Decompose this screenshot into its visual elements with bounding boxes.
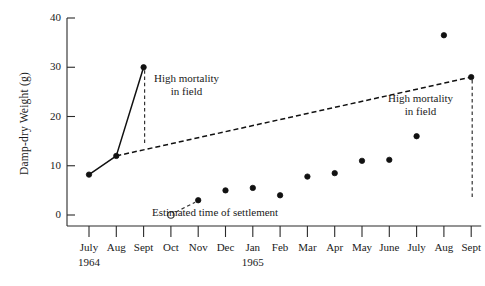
annotation-line: High mortality [154, 72, 219, 85]
y-axis-ticks [67, 18, 75, 215]
series-markers-group [86, 33, 474, 219]
y-axis-label: Damp-dry Weight (g) [18, 72, 30, 175]
high-mortality-1964-annotation: High mortalityin field [154, 72, 219, 97]
high-mortality-1965-annotation: High mortalityin field [388, 92, 453, 117]
x-axis-tick-label: Dec [217, 241, 235, 253]
x-axis-year-label: 1965 [242, 256, 264, 268]
data-point-marker [141, 65, 146, 70]
x-axis-ticks [89, 226, 471, 237]
y-axis-tick-label: 0 [37, 208, 61, 220]
y-axis-tick-label: 20 [37, 110, 61, 122]
x-axis-tick-label: Sept [134, 241, 154, 253]
data-point-marker [277, 193, 282, 198]
y-axis-tick-label: 30 [37, 60, 61, 72]
series-group [89, 67, 471, 212]
x-axis-tick-label: July [407, 241, 425, 253]
x-axis-tick-label: Aug [434, 241, 453, 253]
x-axis-tick-label: May [352, 241, 372, 253]
data-point-marker [469, 74, 474, 79]
annotation-line: in field [388, 105, 453, 118]
y-axis-tick-label: 40 [37, 11, 61, 23]
annotation-line: High mortality [388, 92, 453, 105]
data-point-marker [332, 170, 337, 175]
x-axis-tick-label: July [80, 241, 98, 253]
annotation-line: in field [154, 85, 219, 98]
x-axis-tick-label: Mar [298, 241, 316, 253]
x-axis-tick-label: Aug [107, 241, 126, 253]
chart-figure: Damp-dry Weight (g) 010203040 JulyAugSep… [0, 0, 485, 286]
annotation-line: Estimated time of settlement [152, 206, 278, 219]
data-point-marker [114, 153, 119, 158]
x-axis-tick-label: June [379, 241, 399, 253]
data-point-marker [86, 172, 91, 177]
data-point-marker [223, 188, 228, 193]
x-axis-year-label: 1964 [78, 256, 100, 268]
x-axis-tick-label: Jan [245, 241, 260, 253]
data-point-marker [305, 174, 310, 179]
data-point-marker [196, 198, 201, 203]
x-axis-tick-label: Apr [326, 241, 343, 253]
data-point-marker [250, 185, 255, 190]
estimated-settlement-annotation: Estimated time of settlement [152, 206, 278, 219]
x-axis-tick-label: Nov [189, 241, 208, 253]
x-axis-tick-label: Sept [461, 241, 481, 253]
data-point-marker [414, 134, 419, 139]
axes-group [67, 18, 481, 237]
x-axis-tick-label: Feb [272, 241, 289, 253]
data-point-marker [441, 33, 446, 38]
x-axis-tick-label: Oct [163, 241, 179, 253]
y-axis-tick-label: 10 [37, 159, 61, 171]
data-point-marker [387, 157, 392, 162]
data-point-marker [359, 158, 364, 163]
